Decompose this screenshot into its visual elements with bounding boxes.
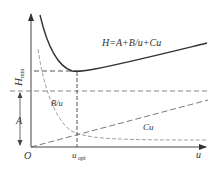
equation-label: H=A+B/u+Cu bbox=[101, 37, 161, 48]
origin-label: O bbox=[24, 150, 31, 161]
svg-text:u: u bbox=[72, 150, 77, 160]
van-deemter-chart: H=A+B/u+Cu H min A B/u Cu O u opt u bbox=[0, 0, 221, 169]
b-over-u-label: B/u bbox=[51, 98, 63, 108]
h-min-label: H min bbox=[12, 69, 25, 87]
cu-label: Cu bbox=[143, 122, 154, 132]
svg-text:opt: opt bbox=[78, 155, 86, 161]
svg-text:min: min bbox=[19, 69, 25, 78]
a-label: A bbox=[15, 115, 23, 126]
x-axis-label: u bbox=[196, 149, 201, 160]
u-opt-label: u opt bbox=[72, 150, 86, 161]
